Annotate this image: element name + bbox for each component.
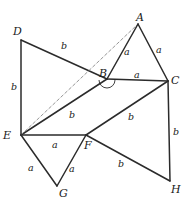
- label-EG: a: [28, 163, 34, 173]
- edge-CH: [168, 81, 170, 181]
- label-DE: b: [11, 82, 17, 92]
- vertex-label-h: H: [171, 184, 181, 195]
- edge-EB: [21, 79, 107, 135]
- vertex-label-a: A: [136, 12, 144, 23]
- label-AB: a: [124, 47, 130, 57]
- label-EF: a: [52, 140, 58, 150]
- label-BC: a: [134, 70, 140, 80]
- label-DB: b: [61, 41, 67, 51]
- label-FH: b: [118, 159, 124, 169]
- label-FG: a: [69, 164, 75, 174]
- vertex-label-e: E: [3, 130, 11, 141]
- vertex-label-b: B: [99, 68, 107, 79]
- figure-canvas: [0, 0, 190, 212]
- vertex-label-d: D: [13, 26, 22, 37]
- label-EB: b: [69, 110, 75, 120]
- vertex-label-f: F: [84, 140, 92, 151]
- edge-AC: [138, 24, 168, 81]
- edge-FG: [57, 135, 86, 186]
- label-FC: b: [128, 112, 134, 122]
- edge-FC: [86, 81, 168, 135]
- geometry-diagram: ABCDEFGH bbbaaaabaabb: [0, 0, 190, 212]
- label-AC: a: [156, 45, 162, 55]
- angle-at-B: [99, 80, 115, 88]
- angle-marks-layer: [99, 80, 115, 88]
- vertex-label-g: G: [59, 188, 68, 199]
- edges-layer: [21, 24, 170, 186]
- vertex-label-c: C: [171, 75, 179, 86]
- label-CH: b: [173, 127, 179, 137]
- edge-FH: [86, 135, 170, 181]
